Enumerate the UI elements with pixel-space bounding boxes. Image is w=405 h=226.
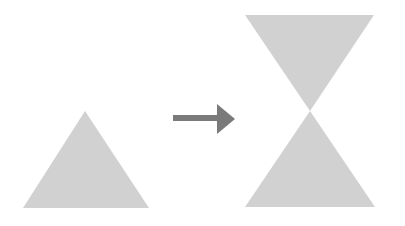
source-triangle [23,111,149,208]
result-top-triangle [245,15,374,111]
arrow-head [217,104,235,134]
arrow-shaft [173,115,218,121]
diagram-canvas [0,0,405,226]
diagram-svg [0,0,405,226]
result-bottom-triangle [245,111,375,207]
arrow-icon [173,104,235,134]
